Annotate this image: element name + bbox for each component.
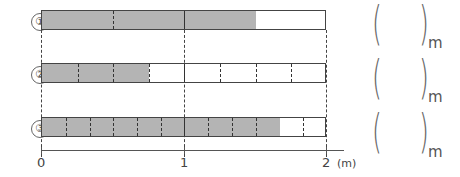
division-line [137,118,138,136]
tape-bar-1 [41,10,326,30]
division-line [113,118,114,136]
tape-bar-3 [41,117,326,137]
tick-0 [41,147,42,154]
filled-portion [42,11,256,29]
division-line [90,118,91,136]
tick-label-2: 2 [322,155,330,170]
guide-1m [184,30,185,157]
division-line [161,118,162,136]
division-line [256,64,257,82]
unit-label-1: m [428,34,443,52]
meter-line [184,64,185,82]
guide-2m [326,30,327,157]
unit-label-3: m [428,143,443,161]
meter-line [184,118,185,136]
filled-portion [42,64,149,82]
tick-label-1: 1 [180,155,188,170]
division-line [149,64,150,82]
number-line-axis [41,150,344,151]
division-line [113,11,114,29]
meter-line [184,11,185,29]
division-line [66,118,67,136]
division-line [220,64,221,82]
answer-value-2[interactable] [385,68,415,88]
tick-2 [326,147,327,154]
division-line [208,118,209,136]
tape-bar-2 [41,63,326,83]
division-line [303,118,304,136]
division-line [113,64,114,82]
division-line [78,64,79,82]
division-line [256,118,257,136]
answer-value-3[interactable] [385,122,415,142]
answer-value-1[interactable] [385,15,415,35]
tick-1 [184,147,185,154]
unit-label-2: m [428,88,443,106]
left-paren: ( [372,50,382,104]
axis-unit-label: (m) [337,157,356,170]
division-line [232,118,233,136]
left-paren: ( [372,0,382,50]
division-line [291,64,292,82]
guide-0m [41,30,42,157]
tick-label-0: 0 [37,155,45,170]
left-paren: ( [372,104,382,158]
